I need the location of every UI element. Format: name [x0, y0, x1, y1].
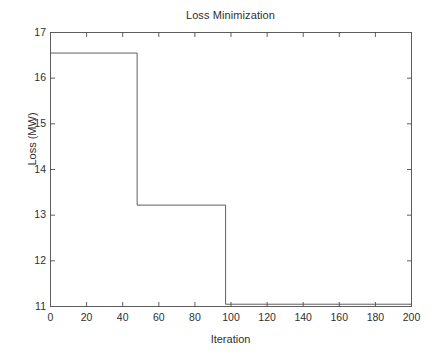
axes-box	[51, 33, 412, 307]
figure-canvas: Loss Minimization Loss (MW) Iteration 11…	[0, 0, 439, 358]
series-line-loss	[51, 53, 412, 304]
plot-area	[0, 0, 439, 358]
axis-ticks	[51, 33, 412, 307]
axes-frame	[51, 33, 412, 307]
data-series-layer	[51, 53, 412, 304]
